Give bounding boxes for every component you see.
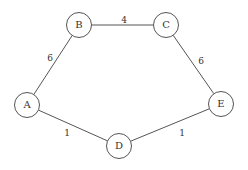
node-label-d: D: [115, 141, 123, 151]
node-label-e: E: [217, 99, 224, 109]
edge-weight-label: 6: [198, 57, 204, 66]
graph-diagram: 64611ABCDE: [0, 0, 248, 170]
edge-weight-label: 1: [179, 129, 185, 138]
edge-weight-label: 4: [121, 16, 127, 25]
edge-c-e: [173, 35, 214, 93]
node-label-a: A: [23, 100, 30, 110]
graph-canvas: [0, 0, 248, 170]
edge-weight-label: 6: [47, 54, 53, 63]
node-label-c: C: [162, 20, 170, 30]
edge-weight-label: 1: [64, 129, 70, 138]
edge-d-e: [131, 109, 210, 141]
node-label-b: B: [75, 20, 82, 30]
edge-a-d: [38, 110, 107, 141]
edge-a-b: [34, 35, 72, 94]
